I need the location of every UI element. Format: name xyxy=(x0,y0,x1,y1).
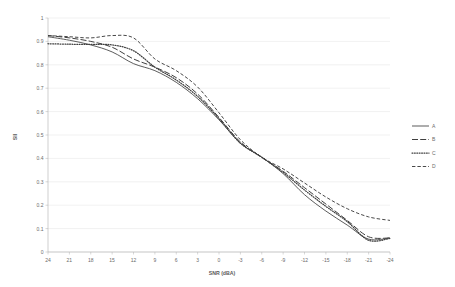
x-axis-tick-label: -21 xyxy=(365,257,372,263)
series-line-C xyxy=(48,44,390,241)
y-axis-tick-label: 0.6 xyxy=(37,109,44,115)
chart-container: 00.10.20.30.40.50.60.70.80.91 2421181512… xyxy=(0,0,455,287)
x-axis-tick-label: -12 xyxy=(301,257,308,263)
x-axis xyxy=(48,252,390,255)
legend-label-A: A xyxy=(432,123,436,129)
x-axis-tick-label: -24 xyxy=(386,257,393,263)
y-axis-tick-label: 0.5 xyxy=(37,132,44,138)
x-axis-tick-label: 21 xyxy=(67,257,73,263)
legend: ABCD xyxy=(412,123,436,169)
x-axis-tick-label: 12 xyxy=(131,257,137,263)
y-axis-tick-label: 0.4 xyxy=(37,155,44,161)
x-axis-tick-label: -15 xyxy=(322,257,329,263)
x-axis-tick-label: 6 xyxy=(175,257,178,263)
series-line-A xyxy=(48,37,390,240)
x-axis-tick-label: 18 xyxy=(88,257,94,263)
plot-series-group xyxy=(48,35,390,241)
series-line-B xyxy=(48,36,390,239)
y-axis-tick-label: 0 xyxy=(41,249,44,255)
y-axis-tick-label: 1 xyxy=(41,15,44,21)
legend-label-D: D xyxy=(432,163,436,169)
y-axis-tick-label: 0.1 xyxy=(37,226,44,232)
series-line-D xyxy=(48,35,390,220)
y-axis-tick-label: 0.2 xyxy=(37,202,44,208)
y-axis-tick-labels: 00.10.20.30.40.50.60.70.80.91 xyxy=(37,15,44,255)
x-axis-title: SNR (dBA) xyxy=(209,270,236,276)
x-axis-tick-label: -6 xyxy=(260,257,265,263)
y-axis-tick-label: 0.3 xyxy=(37,179,44,185)
legend-label-C: C xyxy=(432,150,436,156)
x-axis-tick-label: 9 xyxy=(153,257,156,263)
x-axis-tick-label: 15 xyxy=(109,257,115,263)
y-axis xyxy=(46,18,49,252)
x-axis-tick-label: -9 xyxy=(281,257,286,263)
y-axis-tick-label: 0.8 xyxy=(37,62,44,68)
y-axis-title: SII xyxy=(12,133,18,140)
x-axis-tick-label: 3 xyxy=(196,257,199,263)
x-axis-tick-label: -3 xyxy=(238,257,243,263)
sii-vs-snr-line-chart: 00.10.20.30.40.50.60.70.80.91 2421181512… xyxy=(0,0,455,287)
y-axis-tick-label: 0.9 xyxy=(37,38,44,44)
x-axis-tick-labels: 24211815129630-3-6-9-12-15-18-21-24 xyxy=(45,257,394,263)
x-axis-tick-label: 0 xyxy=(218,257,221,263)
x-axis-tick-label: -18 xyxy=(344,257,351,263)
y-axis-tick-label: 0.7 xyxy=(37,85,44,91)
x-axis-tick-label: 24 xyxy=(45,257,51,263)
legend-label-B: B xyxy=(432,136,436,142)
gridlines xyxy=(48,18,390,252)
